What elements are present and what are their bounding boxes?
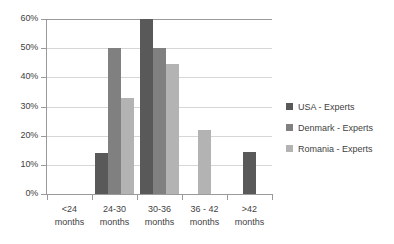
x-axis-category-label-line1: 36 - 42 — [190, 204, 218, 214]
x-axis-category-label: >42months — [219, 203, 281, 229]
x-axis-category-label-line2: months — [219, 216, 281, 229]
bar-group — [92, 19, 137, 194]
legend-item[interactable]: Romania - Experts — [286, 138, 392, 159]
legend-item[interactable]: Denmark - Experts — [286, 117, 392, 138]
y-axis-tick-label: 0% — [0, 189, 38, 198]
legend-label: Romania - Experts — [298, 144, 373, 154]
y-axis-tick-label: 10% — [0, 160, 38, 169]
legend-label: Denmark - Experts — [298, 123, 373, 133]
x-axis-category-label-line1: >42 — [242, 204, 257, 214]
bar-group — [137, 19, 182, 194]
y-axis-tick-label: 20% — [0, 131, 38, 140]
legend-swatch-icon — [286, 124, 293, 131]
bar-group — [227, 19, 272, 194]
y-axis-tick-label: 30% — [0, 102, 38, 111]
bar — [121, 98, 134, 194]
bar-group — [182, 19, 227, 194]
y-axis-tick-label: 60% — [0, 14, 38, 23]
bar-group — [47, 19, 92, 194]
x-axis-tick — [272, 194, 273, 200]
plot-area — [47, 19, 272, 194]
bar — [140, 19, 153, 194]
bar — [198, 130, 211, 194]
x-axis-tick — [182, 194, 183, 200]
x-axis-category-label-line1: 24-30 — [103, 204, 126, 214]
gridline — [47, 194, 272, 195]
bar — [243, 152, 256, 194]
x-axis-tick — [47, 194, 48, 200]
legend-swatch-icon — [286, 103, 293, 110]
legend-item[interactable]: USA - Experts — [286, 96, 392, 117]
x-axis-category-label-line1: 30-36 — [148, 204, 171, 214]
bar-chart: 0%10%20%30%40%50%60% <24months24-30month… — [0, 0, 394, 244]
legend: USA - ExpertsDenmark - ExpertsRomania - … — [286, 96, 392, 159]
bar — [166, 64, 179, 194]
legend-swatch-icon — [286, 145, 293, 152]
bar — [108, 48, 121, 194]
legend-label: USA - Experts — [298, 102, 355, 112]
x-axis-category-label-line1: <24 — [62, 204, 77, 214]
y-axis-tick-label: 40% — [0, 72, 38, 81]
bar — [153, 48, 166, 194]
bar — [95, 153, 108, 194]
x-axis-tick — [227, 194, 228, 200]
x-axis-tick — [92, 194, 93, 200]
x-axis-tick — [137, 194, 138, 200]
y-axis-tick-label: 50% — [0, 43, 38, 52]
